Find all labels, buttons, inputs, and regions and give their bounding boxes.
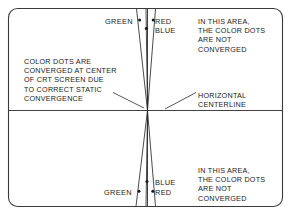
red-dot-bottom [151,190,154,193]
green-dot-top [138,19,141,22]
green-dot-bottom [138,190,141,193]
label-green-bottom: GREEN [104,188,132,197]
note-color-dots-converged: COLOR DOTS ARE CONVERGED AT CENTER OF CR… [24,57,117,103]
blue-dot-top [145,27,148,30]
label-green-top: GREEN [105,17,133,26]
crt-convergence-figure: COLOR DOTS ARE CONVERGED AT CENTER OF CR… [0,0,291,221]
note-top-right-not-converged: IN THIS AREA, THE COLOR DOTS ARE NOT CON… [198,17,265,54]
label-horizontal-centerline: HORIZONTAL CENTERLINE [198,91,246,109]
label-blue-bottom: BLUE [155,178,176,187]
label-red-top: RED [155,17,172,26]
blue-dot-bottom [146,180,149,183]
label-blue-top: BLUE [155,26,176,35]
note-bottom-right-not-converged: IN THIS AREA, THE COLOR DOTS ARE NOT CON… [198,166,265,203]
label-red-bottom: RED [155,188,172,197]
